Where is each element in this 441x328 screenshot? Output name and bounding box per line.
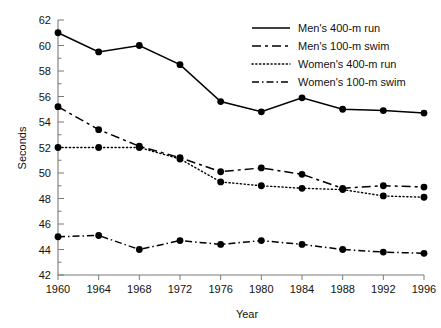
data-point bbox=[380, 182, 387, 189]
data-point bbox=[136, 144, 143, 151]
data-point bbox=[217, 241, 224, 248]
legend-label: Women's 100-m swim bbox=[298, 76, 406, 88]
y-tick-label: 46 bbox=[39, 218, 51, 230]
data-point bbox=[95, 48, 102, 55]
data-point bbox=[217, 98, 224, 105]
x-tick-label: 1976 bbox=[208, 283, 232, 295]
x-tick-label: 1992 bbox=[371, 283, 395, 295]
y-tick-label: 54 bbox=[39, 116, 51, 128]
x-tick-label: 1972 bbox=[168, 283, 192, 295]
data-point bbox=[380, 193, 387, 200]
line-chart: 4244464850525456586062 19601964196819721… bbox=[0, 0, 441, 328]
data-point bbox=[258, 165, 265, 172]
legend-label: Women's 400-m run bbox=[298, 58, 397, 70]
y-tick-label: 44 bbox=[39, 244, 51, 256]
y-tick-label: 58 bbox=[39, 65, 51, 77]
y-tick-label: 60 bbox=[39, 40, 51, 52]
data-point bbox=[380, 107, 387, 114]
y-axis-title: Seconds bbox=[16, 126, 28, 169]
y-tick-label: 50 bbox=[39, 167, 51, 179]
chart-container: 4244464850525456586062 19601964196819721… bbox=[0, 0, 441, 328]
data-point bbox=[421, 184, 428, 191]
x-tick-label: 1968 bbox=[127, 283, 151, 295]
data-point bbox=[177, 237, 184, 244]
data-point bbox=[339, 186, 346, 193]
data-point bbox=[177, 61, 184, 68]
data-point bbox=[421, 250, 428, 257]
data-point bbox=[258, 182, 265, 189]
data-point bbox=[136, 246, 143, 253]
y-tick-label: 56 bbox=[39, 91, 51, 103]
data-point bbox=[136, 42, 143, 49]
data-point bbox=[299, 185, 306, 192]
x-tick-label: 1960 bbox=[46, 283, 70, 295]
data-point bbox=[55, 233, 62, 240]
data-point bbox=[177, 156, 184, 163]
data-point bbox=[421, 194, 428, 201]
data-point bbox=[95, 144, 102, 151]
y-tick-label: 62 bbox=[39, 14, 51, 26]
data-point bbox=[299, 241, 306, 248]
data-point bbox=[339, 106, 346, 113]
data-point bbox=[339, 246, 346, 253]
data-point bbox=[258, 237, 265, 244]
x-tick-label: 1984 bbox=[290, 283, 314, 295]
data-point bbox=[299, 94, 306, 101]
legend-label: Men's 100-m swim bbox=[298, 40, 389, 52]
x-tick-label: 1964 bbox=[86, 283, 110, 295]
data-point bbox=[55, 29, 62, 36]
legend-label: Men's 400-m run bbox=[298, 22, 380, 34]
data-point bbox=[217, 168, 224, 175]
data-point bbox=[258, 108, 265, 115]
data-point bbox=[55, 103, 62, 110]
x-tick-label: 1980 bbox=[249, 283, 273, 295]
data-point bbox=[299, 171, 306, 178]
x-axis-title: Year bbox=[236, 308, 259, 320]
data-point bbox=[217, 179, 224, 186]
y-tick-label: 42 bbox=[39, 269, 51, 281]
data-point bbox=[95, 126, 102, 133]
data-point bbox=[380, 249, 387, 256]
data-point bbox=[95, 232, 102, 239]
y-tick-label: 48 bbox=[39, 193, 51, 205]
y-tick-label: 52 bbox=[39, 142, 51, 154]
x-tick-label: 1988 bbox=[330, 283, 354, 295]
data-point bbox=[55, 144, 62, 151]
x-tick-label: 1996 bbox=[412, 283, 436, 295]
data-point bbox=[421, 110, 428, 117]
